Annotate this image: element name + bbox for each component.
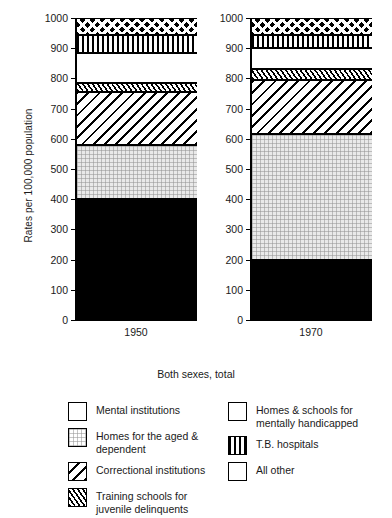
y-axis-tick — [246, 260, 251, 261]
legend-column-left: Mental institutionsHomes for the aged & … — [68, 402, 233, 518]
y-axis-tick — [71, 78, 76, 79]
x-axis-line — [75, 320, 197, 321]
bar-segment — [252, 134, 372, 259]
y-axis-tick-label: 600 — [50, 134, 68, 145]
legend-item[interactable]: Correctional institutions — [68, 462, 233, 481]
y-axis-tick-label: 100 — [50, 285, 68, 296]
y-axis-tick-label: 700 — [50, 103, 68, 114]
y-axis-tick-label: 0 — [62, 315, 68, 326]
stacked-bar-1970 — [251, 18, 371, 320]
y-axis-tick-label: 100 — [225, 285, 243, 296]
y-axis-tick — [71, 169, 76, 170]
legend-column-right: Homes & schools for mentally handicapped… — [228, 402, 392, 488]
y-axis-tick-label: 900 — [50, 43, 68, 54]
y-axis-tick — [246, 320, 251, 321]
y-axis-tick — [246, 18, 251, 19]
legend-item[interactable]: Homes for the aged & dependent — [68, 428, 233, 455]
bar-segment — [77, 145, 197, 199]
y-axis-tick-label: 500 — [225, 164, 243, 175]
x-axis-line — [250, 320, 372, 321]
chart-caption: Both sexes, total — [0, 368, 392, 380]
stacked-bar-chart-figure: Rates per 100,000 population 1950 010020… — [0, 0, 392, 518]
y-axis-tick — [71, 109, 76, 110]
legend-item-label: Correctional institutions — [96, 462, 205, 477]
bar-segment — [252, 18, 372, 35]
y-axis-tick — [246, 229, 251, 230]
y-axis-tick-label: 400 — [50, 194, 68, 205]
y-axis-tick — [246, 199, 251, 200]
bar-segment — [252, 80, 372, 134]
y-axis-tick-label: 400 — [225, 194, 243, 205]
y-axis-tick — [71, 18, 76, 19]
y-axis-tick — [71, 48, 76, 49]
y-axis-tick — [71, 139, 76, 140]
y-axis-tick — [71, 290, 76, 291]
legend-swatch-white — [228, 402, 247, 421]
legend-item-label: Mental institutions — [96, 402, 180, 417]
y-axis-tick-label: 200 — [50, 254, 68, 265]
x-category-label-1970: 1970 — [251, 326, 371, 338]
legend-item[interactable]: Mental institutions — [68, 402, 233, 421]
legend-item-label: Training schools for juvenile delinquent… — [96, 488, 188, 515]
y-axis-tick — [246, 139, 251, 140]
y-axis-tick — [71, 260, 76, 261]
y-axis-tick-label: 900 — [225, 43, 243, 54]
legend-swatch-wide-diagonal-hatch — [68, 462, 87, 481]
plot-panel-1970: 1970 01002003004005006007008009001000 — [251, 18, 371, 320]
bar-segment — [252, 35, 372, 49]
y-axis-title: Rates per 100,000 population — [23, 66, 34, 286]
y-axis-tick-label: 200 — [225, 254, 243, 265]
legend-item[interactable]: Training schools for juvenile delinquent… — [68, 488, 233, 515]
legend-item-label: T.B. hospitals — [256, 436, 318, 451]
y-axis-tick-label: 800 — [225, 73, 243, 84]
legend-swatch-dense-diagonal-hatch — [68, 488, 87, 507]
bar-segment — [77, 199, 197, 320]
bar-segment — [77, 83, 197, 92]
bar-segment — [252, 69, 372, 80]
y-axis-tick-label: 500 — [50, 164, 68, 175]
y-axis-tick-label: 300 — [50, 224, 68, 235]
y-axis-tick-label: 0 — [237, 315, 243, 326]
y-axis-tick-label: 800 — [50, 73, 68, 84]
bar-segment — [77, 53, 197, 83]
x-category-label-1950: 1950 — [76, 326, 196, 338]
y-axis-tick-label: 300 — [225, 224, 243, 235]
y-axis-tick-label: 700 — [225, 103, 243, 114]
bar-segment — [77, 92, 197, 145]
legend-swatch-crosshatch — [228, 462, 247, 481]
legend-item-label: Homes & schools for mentally handicapped — [256, 402, 358, 429]
legend-swatch-light-dotted-gray — [68, 428, 87, 447]
plot-panel-1950: 1950 01002003004005006007008009001000 — [76, 18, 196, 320]
legend-swatch-solid-black — [68, 402, 87, 421]
stacked-bar-1950 — [76, 18, 196, 320]
bar-segment — [252, 260, 372, 320]
y-axis-tick-label: 600 — [225, 134, 243, 145]
bar-segment — [252, 48, 372, 69]
chart-legend: Mental institutionsHomes for the aged & … — [0, 402, 392, 518]
y-axis-tick — [71, 229, 76, 230]
y-axis-tick — [71, 320, 76, 321]
y-axis-tick — [246, 109, 251, 110]
bar-segment — [77, 18, 197, 35]
y-axis-tick-label: 1000 — [220, 13, 243, 24]
y-axis-tick — [246, 78, 251, 79]
y-axis-tick-label: 1000 — [45, 13, 68, 24]
y-axis-tick — [246, 48, 251, 49]
y-axis-tick — [246, 169, 251, 170]
legend-item[interactable]: T.B. hospitals — [228, 436, 392, 455]
y-axis-tick — [246, 290, 251, 291]
legend-item[interactable]: All other — [228, 462, 392, 481]
legend-item-label: All other — [256, 462, 295, 477]
legend-item-label: Homes for the aged & dependent — [96, 428, 198, 455]
y-axis-tick — [71, 199, 76, 200]
bar-segment — [77, 35, 197, 53]
legend-swatch-vertical-lines — [228, 436, 247, 455]
legend-item[interactable]: Homes & schools for mentally handicapped — [228, 402, 392, 429]
